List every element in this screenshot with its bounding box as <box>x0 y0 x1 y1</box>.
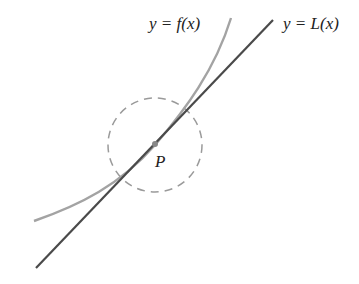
linearization-diagram: y = f(x) y = L(x) P <box>0 0 359 284</box>
diagram-canvas <box>0 0 359 284</box>
point-label: P <box>155 152 165 172</box>
point-P-marker <box>152 141 158 147</box>
curve-f <box>34 18 231 221</box>
tangent-label: y = L(x) <box>283 14 339 34</box>
curve-label: y = f(x) <box>149 14 200 34</box>
